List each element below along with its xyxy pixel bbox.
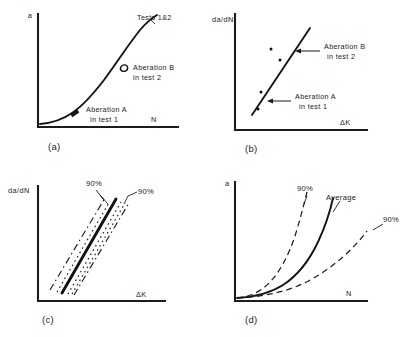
panel-c-annotation-90-lower: 90%: [138, 187, 154, 196]
panel-d-leader-average: [333, 201, 340, 212]
panel-b-annotation-aberration-a-line2: in test 1: [299, 102, 327, 111]
panel-c-band-inner-mid-lower: [72, 203, 125, 294]
panel-a-xlabel: N: [151, 115, 157, 124]
panel-a: a N Tests 1&2 Aberation B in test 2 Aber…: [0, 0, 207, 168]
panel-a-marker-aberration-a: [71, 110, 79, 116]
panel-c-band-90-lower: [74, 203, 129, 295]
panel-c-plot: da/dN ΔK 90% 90% (c): [0, 168, 207, 337]
panel-b-axes: [235, 14, 367, 130]
panel-b-datapoint: [279, 59, 282, 62]
panel-b-plot: da/dN ΔK Aberation B in test 2 Aberation…: [207, 0, 415, 168]
panel-b-annotation-aberration-b-line2: in test 2: [327, 52, 355, 61]
panel-c: da/dN ΔK 90% 90% (c): [0, 168, 207, 337]
panel-b-datapoint: [257, 108, 260, 111]
panel-b-caption: (b): [245, 143, 258, 154]
panel-c-annotation-90-upper: 90%: [86, 179, 102, 188]
panel-c-mean-line: [62, 199, 116, 293]
panel-d-xlabel: N: [346, 289, 352, 298]
panel-a-annotation-aberration-a-line2: in test 1: [90, 115, 118, 124]
panel-a-annotation-aberration-b-line2: in test 2: [133, 73, 161, 82]
panel-d: a N 90% Average 90% (d): [207, 168, 415, 337]
panel-a-annotation-tests: Tests 1&2: [137, 13, 172, 22]
panel-d-curve-90-lower: [237, 231, 367, 298]
panel-a-annotation-aberration-a-line1: Aberation A: [86, 105, 127, 114]
panel-d-curve-average: [237, 198, 333, 298]
panel-c-xlabel: ΔK: [136, 290, 147, 299]
panel-d-annotation-average: Average: [326, 193, 356, 202]
panel-b-annotation-aberration-b-line1: Aberation B: [324, 42, 365, 51]
panel-d-caption: (d): [245, 314, 258, 325]
panel-b-datapoint: [270, 48, 273, 51]
panel-a-caption: (a): [48, 141, 61, 152]
panel-b-arrow-a-head: [267, 99, 273, 104]
panel-b: da/dN ΔK Aberation B in test 2 Aberation…: [207, 0, 415, 168]
panel-b-datapoint: [260, 91, 263, 94]
panel-b-annotation-aberration-a-line1: Aberation A: [295, 92, 336, 101]
panel-b-ylabel: da/dN: [212, 15, 234, 24]
panel-d-ylabel: a: [225, 179, 230, 188]
panel-a-ylabel: a: [28, 11, 33, 20]
panel-c-ylabel: da/dN: [8, 186, 30, 195]
panel-c-leader-lower: [124, 192, 137, 204]
panel-c-axes: [38, 186, 165, 301]
panel-a-plot: a N Tests 1&2 Aberation B in test 2 Aber…: [0, 0, 207, 168]
panel-d-leader-lower: [373, 224, 383, 230]
panel-d-curve-90-upper: [237, 192, 307, 298]
panel-d-annotation-90-lower: 90%: [383, 215, 399, 224]
panel-c-leader-upper: [96, 190, 108, 204]
panel-d-plot: a N 90% Average 90% (d): [207, 168, 415, 337]
panel-a-annotation-aberration-b-line1: Aberation B: [133, 63, 174, 72]
panel-c-caption: (c): [42, 314, 54, 325]
panel-b-xlabel: ΔK: [340, 118, 351, 127]
panel-c-band-inner-lower: [68, 202, 121, 294]
panel-a-marker-aberration-b: [120, 65, 127, 72]
figure-root: a N Tests 1&2 Aberation B in test 2 Aber…: [0, 0, 415, 337]
panel-d-annotation-90-upper: 90%: [297, 184, 313, 193]
panel-c-band-90-upper: [50, 198, 105, 290]
